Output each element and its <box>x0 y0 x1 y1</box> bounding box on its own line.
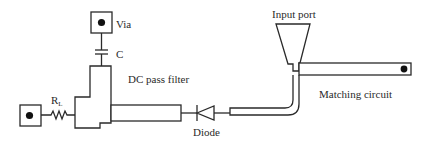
filter-transmission-line <box>111 105 181 121</box>
circuit-diagram: Via C RL DC pass filter Diode Input port… <box>0 0 429 145</box>
dc-pass-filter-label: DC pass filter <box>128 74 189 85</box>
capacitor-symbol <box>95 33 108 66</box>
diode-symbol <box>181 105 230 121</box>
diode-label: Diode <box>193 127 220 138</box>
capacitor-label: C <box>116 49 123 60</box>
matching-bend-line <box>230 75 299 115</box>
input-port-label: Input port <box>272 9 316 20</box>
matching-stub <box>299 63 411 75</box>
resistor-label-subscript: L <box>58 100 62 108</box>
load-resistor <box>41 111 75 119</box>
circuit-drawing <box>0 0 429 145</box>
via-pad <box>91 12 112 33</box>
output-pad <box>20 105 41 126</box>
dc-pass-filter-block <box>75 66 111 128</box>
matching-circuit-label: Matching circuit <box>319 89 392 100</box>
resistor-label: RL <box>51 95 63 108</box>
via-label: Via <box>116 19 131 30</box>
